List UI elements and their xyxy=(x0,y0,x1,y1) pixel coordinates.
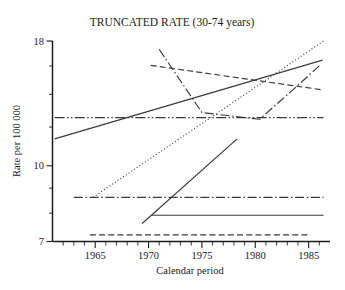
series-line-steep-dotted xyxy=(93,41,324,197)
data-series-group xyxy=(55,41,324,235)
chart-title: TRUNCATED RATE (30-74 years) xyxy=(90,16,255,29)
truncated-rate-line-chart: TRUNCATED RATE (30-74 years) 71018 Rate … xyxy=(0,0,345,290)
x-tick-label: 1970 xyxy=(138,250,159,261)
y-axis-ticks xyxy=(47,41,53,242)
chart-container: TRUNCATED RATE (30-74 years) 71018 Rate … xyxy=(0,0,345,290)
series-line-declining-dashed xyxy=(151,65,323,90)
x-axis: 19651970197519801985 Calendar period xyxy=(53,242,331,277)
x-axis-ticks xyxy=(63,242,319,249)
y-tick-label: 7 xyxy=(39,236,44,247)
y-tick-label: 10 xyxy=(34,160,45,171)
x-axis-title: Calendar period xyxy=(156,265,224,276)
x-tick-label: 1975 xyxy=(191,250,212,261)
x-tick-label: 1980 xyxy=(245,250,266,261)
x-tick-label: 1965 xyxy=(85,250,106,261)
x-tick-label: 1985 xyxy=(298,250,319,261)
y-axis-title: Rate per 100 000 xyxy=(11,105,22,177)
x-axis-tick-labels: 19651970197519801985 xyxy=(85,250,319,261)
y-axis-tick-labels: 71018 xyxy=(34,36,45,248)
y-axis: 71018 Rate per 100 000 xyxy=(11,36,53,248)
y-tick-label: 18 xyxy=(34,36,45,47)
series-line-rising-solid-short xyxy=(142,139,237,224)
